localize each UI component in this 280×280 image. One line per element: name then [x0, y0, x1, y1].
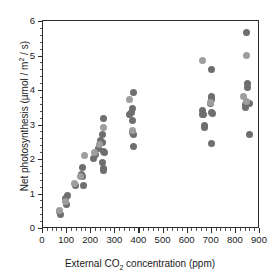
- x-tick-minor: [76, 228, 77, 231]
- y-axis-title-superscript: 2: [18, 58, 25, 62]
- x-tick-minor: [216, 228, 217, 231]
- y-axis-title-post: / s): [19, 41, 30, 58]
- x-tick-minor: [52, 228, 53, 231]
- x-axis-title: External CO2 concentration (ppm): [0, 258, 280, 271]
- x-tick-minor: [71, 228, 72, 231]
- y-tick-minor: [40, 69, 43, 70]
- x-tick-minor: [201, 228, 202, 231]
- x-tick-minor: [153, 228, 154, 231]
- x-tick-major: [259, 228, 260, 233]
- y-tick-minor: [40, 35, 43, 36]
- x-tick-minor: [191, 228, 192, 231]
- x-tick-minor: [230, 228, 231, 231]
- y-tick-minor: [40, 83, 43, 84]
- data-point: [130, 89, 137, 96]
- y-tick-minor: [40, 152, 43, 153]
- data-point: [199, 57, 206, 64]
- y-tick-minor: [40, 187, 43, 188]
- data-point: [207, 99, 214, 106]
- y-tick-minor: [40, 138, 43, 139]
- x-axis-title-post: concentration (ppm): [123, 258, 215, 269]
- data-point: [244, 84, 251, 91]
- x-tick-major: [211, 228, 212, 233]
- x-tick-minor: [158, 228, 159, 231]
- y-tick-major: [38, 125, 43, 126]
- x-tick-minor: [172, 228, 173, 231]
- x-tick-major: [114, 228, 115, 233]
- y-axis-title-pre: Net photosynthesis (µmol / m: [19, 62, 30, 192]
- data-point: [208, 140, 215, 147]
- y-tick-minor: [40, 131, 43, 132]
- x-tick-minor: [177, 228, 178, 231]
- x-tick-minor: [85, 228, 86, 231]
- y-tick-minor: [40, 214, 43, 215]
- x-tick-minor: [134, 228, 135, 231]
- x-tick-minor: [167, 228, 168, 231]
- plot-area: [42, 21, 259, 228]
- data-point: [208, 66, 215, 73]
- y-tick-major: [38, 228, 43, 229]
- x-tick-major: [66, 228, 67, 233]
- x-tick-major: [138, 228, 139, 233]
- data-point: [100, 115, 107, 122]
- data-point: [129, 127, 136, 134]
- x-tick-minor: [105, 228, 106, 231]
- y-tick-minor: [40, 221, 43, 222]
- y-tick-major: [38, 90, 43, 91]
- data-point: [200, 111, 207, 118]
- x-tick-minor: [143, 228, 144, 231]
- y-tick-minor: [40, 97, 43, 98]
- x-tick-major: [90, 228, 91, 233]
- y-tick-minor: [40, 49, 43, 50]
- data-point: [243, 29, 250, 36]
- data-point: [81, 152, 88, 159]
- data-point: [56, 207, 63, 214]
- x-tick-minor: [249, 228, 250, 231]
- x-tick-minor: [119, 228, 120, 231]
- data-point: [201, 122, 208, 129]
- y-tick-minor: [40, 28, 43, 29]
- y-tick-minor: [40, 180, 43, 181]
- x-tick-minor: [245, 228, 246, 231]
- y-tick-major: [38, 56, 43, 57]
- y-axis-title: Net photosynthesis (µmol / m2 / s): [18, 6, 30, 226]
- x-tick-minor: [225, 228, 226, 231]
- y-tick-minor: [40, 42, 43, 43]
- data-point: [96, 141, 103, 148]
- y-tick-major: [38, 21, 43, 22]
- x-tick-major: [187, 228, 188, 233]
- data-point: [100, 124, 107, 131]
- data-point: [129, 117, 136, 124]
- x-tick-minor: [100, 228, 101, 231]
- x-tick-major: [235, 228, 236, 233]
- x-tick-minor: [129, 228, 130, 231]
- x-tick-minor: [61, 228, 62, 231]
- x-tick-major: [42, 228, 43, 233]
- y-tick-minor: [40, 118, 43, 119]
- x-tick-minor: [206, 228, 207, 231]
- y-tick-minor: [40, 173, 43, 174]
- data-point: [209, 110, 216, 117]
- x-tick-minor: [56, 228, 57, 231]
- x-tick-minor: [81, 228, 82, 231]
- x-axis-title-pre: External CO: [65, 258, 119, 269]
- x-tick-minor: [254, 228, 255, 231]
- y-tick-major: [38, 159, 43, 160]
- x-tick-major: [163, 228, 164, 233]
- x-tick-minor: [95, 228, 96, 231]
- x-tick-minor: [148, 228, 149, 231]
- data-point: [80, 182, 87, 189]
- data-point: [79, 164, 86, 171]
- y-tick-minor: [40, 76, 43, 77]
- y-tick-minor: [40, 166, 43, 167]
- y-tick-minor: [40, 145, 43, 146]
- data-point: [101, 149, 108, 156]
- x-tick-label: 900: [244, 235, 274, 245]
- x-tick-minor: [47, 228, 48, 231]
- data-point: [126, 96, 133, 103]
- data-point: [77, 173, 84, 180]
- data-point: [100, 167, 107, 174]
- data-point: [99, 131, 106, 138]
- data-point: [62, 198, 69, 205]
- y-tick-minor: [40, 207, 43, 208]
